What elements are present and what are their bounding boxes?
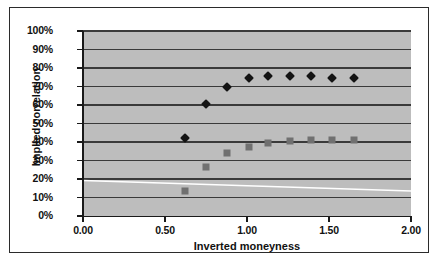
data-point-square [286, 138, 293, 145]
y-axis-tick [77, 86, 83, 87]
chart-figure: 0%10%20%30%40%50%60%70%80%90%100% 0.000.… [0, 0, 439, 268]
data-point-square [265, 139, 272, 146]
y-axis-tick [77, 141, 83, 142]
y-axis-tick [77, 160, 83, 161]
y-axis-title: Implied correlation [30, 47, 42, 187]
x-axis-tick-label: 1.00 [225, 224, 269, 236]
trend-line-segment [83, 180, 411, 191]
y-axis-tick [77, 178, 83, 179]
x-axis-tick-label: 0.00 [61, 224, 105, 236]
x-axis-tick-label: 0.50 [143, 224, 187, 236]
y-axis-tick [77, 30, 83, 31]
y-axis-tick [77, 104, 83, 105]
x-axis-tick [328, 216, 329, 222]
y-axis-tick [77, 197, 83, 198]
data-point-square [181, 188, 188, 195]
y-axis-tick-label: 0% [38, 209, 53, 221]
data-point-square [245, 143, 252, 150]
y-axis-tick [77, 49, 83, 50]
data-point-square [329, 137, 336, 144]
data-point-square [307, 137, 314, 144]
x-axis-tick [410, 216, 411, 222]
chart-frame: 0%10%20%30%40%50%60%70%80%90%100% 0.000.… [9, 7, 429, 253]
x-axis-tick-label: 1.50 [307, 224, 351, 236]
data-point-square [224, 150, 231, 157]
x-axis-tick-label: 2.00 [389, 224, 433, 236]
x-axis-tick [82, 216, 83, 222]
data-point-square [350, 137, 357, 144]
x-axis-title: Inverted moneyness [83, 240, 411, 252]
x-axis-tick [164, 216, 165, 222]
y-axis-tick [77, 67, 83, 68]
x-axis-tick [246, 216, 247, 222]
y-axis-tick [77, 123, 83, 124]
data-point-square [203, 163, 210, 170]
trend-line [83, 31, 411, 216]
y-axis-tick-label: 100% [27, 24, 53, 36]
y-axis-tick-label: 10% [33, 191, 53, 203]
